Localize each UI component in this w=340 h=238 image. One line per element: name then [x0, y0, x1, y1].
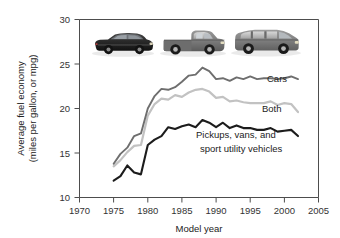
y-tick-label-25: 25 — [59, 59, 70, 70]
x-tick-label-1975: 1975 — [103, 205, 124, 216]
x-tick-label-1970: 1970 — [69, 205, 90, 216]
pickup-truck-photo — [160, 30, 226, 56]
y-tick-label-30: 30 — [59, 14, 70, 25]
y-tick-label-20: 20 — [59, 103, 70, 114]
y-axis-title-line1: Average fuel economy — [15, 61, 26, 156]
chart-canvas: 10 15 20 25 30 1970 1975 1980 1985 1990 … — [0, 0, 340, 238]
trucks-series-label-line2: sport utility vehicles — [200, 143, 283, 154]
x-axis-ticks — [80, 198, 319, 203]
y-tick-label-15: 15 — [59, 148, 70, 159]
fuel-economy-chart-figure: 10 15 20 25 30 1970 1975 1980 1985 1990 … — [0, 0, 340, 238]
cars-series-label: Cars — [267, 73, 287, 84]
x-tick-label-1990: 1990 — [206, 205, 227, 216]
x-tick-label-1985: 1985 — [171, 205, 192, 216]
y-axis-ticks — [75, 20, 80, 198]
x-tick-label-2005: 2005 — [308, 205, 329, 216]
x-tick-label-1980: 1980 — [137, 205, 158, 216]
y-axis-title-line2: (miles per gallon, or mpg) — [27, 55, 38, 163]
both-series-label: Both — [262, 103, 282, 114]
suv-wagon-photo — [231, 30, 301, 57]
sedan-car-photo — [92, 33, 154, 57]
y-tick-label-10: 10 — [59, 192, 70, 203]
x-tick-label-2000: 2000 — [274, 205, 295, 216]
x-axis-title: Model year — [176, 223, 223, 234]
x-tick-label-1995: 1995 — [240, 205, 261, 216]
trucks-series-label-line1: Pickups, vans, and — [196, 129, 276, 140]
